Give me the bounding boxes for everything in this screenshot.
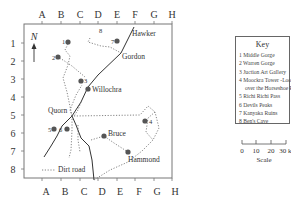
svg-text:0: 0 (240, 147, 244, 155)
dirt-road-legend: Dirt road (42, 165, 86, 174)
row-labels: 1 2 3 4 5 6 7 8 (11, 38, 16, 175)
svg-text:30 km: 30 km (279, 147, 291, 155)
site-7-marker (114, 38, 119, 43)
svg-text:8: 8 (99, 27, 102, 34)
svg-text:A: A (38, 9, 46, 20)
svg-text:4: 4 (11, 92, 16, 103)
svg-text:G: G (150, 9, 157, 20)
svg-text:C: C (81, 186, 88, 197)
key-item: 5 Richi Richi Pass (239, 92, 291, 100)
svg-text:B: B (62, 186, 69, 197)
svg-text:1: 1 (62, 38, 65, 45)
svg-text:N: N (30, 31, 39, 42)
key-item: 6 Devils Peaks (239, 101, 291, 109)
north-arrow-icon: N (30, 31, 39, 62)
svg-text:A: A (42, 186, 50, 197)
svg-text:3: 3 (11, 74, 16, 85)
svg-text:7: 7 (11, 146, 16, 157)
key-item: 3 Juction Art Gallery (239, 68, 291, 76)
town-labels: Hawker Gordon Willochra Quorn Bruce Hamm… (48, 29, 160, 164)
svg-text:E: E (117, 186, 123, 197)
key-title: Key (236, 40, 289, 49)
willochra-marker (85, 86, 90, 91)
svg-text:H: H (171, 186, 178, 197)
svg-text:Scale: Scale (256, 156, 271, 164)
site-3-marker (78, 78, 83, 83)
key-item: over the Horseshoe Ranges (239, 84, 291, 92)
svg-text:6: 6 (11, 128, 16, 139)
site-1-marker (65, 39, 70, 44)
main-road-west (44, 116, 72, 157)
site-5-marker (51, 126, 56, 131)
svg-text:1: 1 (11, 38, 16, 49)
svg-text:2: 2 (11, 56, 16, 67)
svg-text:C: C (77, 9, 84, 20)
svg-text:6: 6 (59, 126, 63, 133)
svg-text:G: G (153, 186, 160, 197)
bruce-marker (101, 133, 106, 138)
svg-text:H: H (168, 9, 175, 20)
svg-text:20: 20 (268, 147, 276, 155)
key-item: 7 Kanyaka Ruins (239, 109, 291, 117)
site-6-marker (64, 126, 69, 131)
svg-text:Willochra: Willochra (92, 85, 122, 94)
column-labels-top: A B C D E F G H (38, 9, 175, 20)
map-key: Key 1 Middle Gorge 2 Warren Gorge 3 Juct… (235, 36, 290, 124)
column-labels-bottom: A B C D E F G H (42, 186, 178, 197)
svg-text:Hawker: Hawker (132, 29, 156, 38)
svg-text:F: F (136, 186, 142, 197)
svg-text:8: 8 (11, 164, 16, 175)
key-item: 2 Warren Gorge (239, 59, 291, 67)
svg-text:B: B (58, 9, 65, 20)
svg-text:3: 3 (84, 77, 87, 84)
svg-text:D: D (98, 186, 105, 197)
svg-text:Quorn: Quorn (48, 106, 67, 115)
svg-text:D: D (94, 9, 101, 20)
main-road (72, 27, 134, 180)
svg-text:5: 5 (11, 110, 16, 121)
key-item: 1 Middle Gorge (239, 51, 291, 59)
scale-bar: 0 10 20 30 km Scale (240, 140, 291, 164)
hammond-marker (125, 149, 130, 154)
svg-text:Hammond: Hammond (128, 155, 160, 164)
svg-text:E: E (114, 9, 120, 20)
svg-text:Bruce: Bruce (108, 129, 127, 138)
svg-text:4: 4 (149, 118, 153, 125)
svg-text:Dirt road: Dirt road (58, 165, 86, 174)
site-4-marker (142, 118, 147, 123)
svg-text:10: 10 (253, 147, 261, 155)
svg-text:F: F (132, 9, 138, 20)
key-list: 1 Middle Gorge 2 Warren Gorge 3 Juction … (239, 51, 291, 126)
svg-text:7: 7 (111, 38, 115, 45)
svg-text:5: 5 (48, 126, 51, 133)
site-2-marker (55, 54, 60, 59)
key-item: 4 Moockra Tower -Lookout (239, 76, 291, 84)
svg-text:2: 2 (52, 54, 55, 61)
key-item: 8 Ben's Cave (239, 117, 291, 125)
svg-text:Gordon: Gordon (122, 52, 145, 61)
